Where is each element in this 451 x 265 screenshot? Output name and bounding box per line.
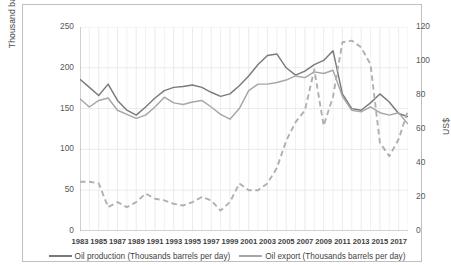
y-axis-right-tick-label: 40 [416, 157, 442, 167]
legend-label: Oil export (Thousands barrels per day) [265, 252, 405, 261]
legend-item[interactable]: Oil production (Thousands barrels per da… [49, 252, 231, 261]
x-axis-tick-label: 2017 [385, 237, 413, 246]
y-axis-right-tick-label: 120 [416, 21, 442, 31]
chart-frame: Thousand barrels per day US$ 05010015020… [22, 4, 422, 262]
chart-legend: Oil production (Thousands barrels per da… [31, 249, 423, 263]
legend-swatch [49, 255, 72, 257]
y-axis-right-title: US$ [441, 118, 451, 135]
y-axis-right-tick-label: 80 [416, 89, 442, 99]
y-axis-left-tick-label: 200 [48, 62, 74, 72]
chart-svg [80, 27, 408, 231]
y-axis-left-tick-label: 150 [48, 103, 74, 113]
y-axis-left-title: Thousand barrels per day [7, 0, 17, 63]
y-axis-right-tick-label: 100 [416, 55, 442, 65]
legend-label: Oil production (Thousands barrels per da… [75, 252, 231, 261]
y-axis-left-tick-label: 50 [48, 184, 74, 194]
gridlines [80, 27, 408, 231]
y-axis-left-tick-label: 250 [48, 21, 74, 31]
legend-item[interactable]: Oil export (Thousands barrels per day) [239, 252, 405, 261]
series-line [80, 51, 408, 117]
y-axis-right-tick-label: 20 [416, 191, 442, 201]
y-axis-right-tick-label: 60 [416, 123, 442, 133]
plot-area [80, 27, 408, 231]
y-axis-left-tick-label: 100 [48, 143, 74, 153]
series-line [80, 70, 408, 124]
legend-swatch [239, 255, 262, 257]
y-axis-left-tick-label: 0 [48, 225, 74, 235]
series-line [80, 41, 408, 211]
y-axis-right-tick-label: 0 [416, 225, 442, 235]
